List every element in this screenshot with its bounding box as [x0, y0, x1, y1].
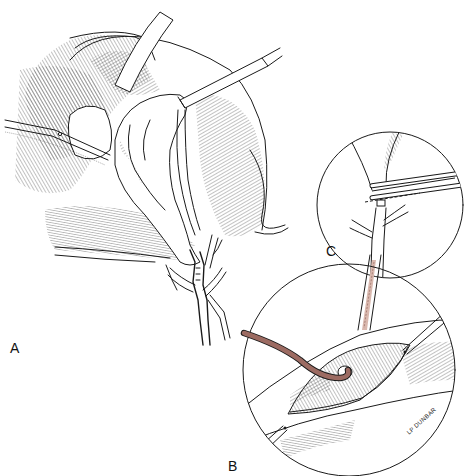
panel-label-c: C [326, 243, 336, 259]
panel-a [5, 12, 288, 345]
panel-label-b: B [228, 458, 237, 474]
panel-b [238, 264, 460, 476]
panel-c [317, 130, 464, 330]
panel-label-a: A [10, 340, 19, 356]
surgical-illustration [0, 0, 469, 476]
